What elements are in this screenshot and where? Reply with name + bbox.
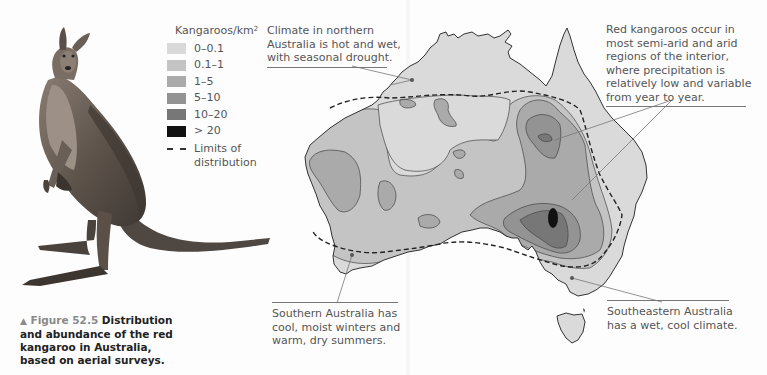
callout-southeast: Southeastern Australia has a wet, cool c… [607, 300, 738, 332]
triangle-marker-icon: ▲ [20, 316, 27, 326]
callout-north: Climate in northern Australia is hot and… [267, 24, 401, 68]
callout-line: Red kangaroos occur in [606, 23, 751, 37]
callout-interior: Red kangaroos occur in most semi-arid an… [606, 23, 751, 107]
callout-line: Southeastern Australia [607, 305, 738, 319]
callout-south: Southern Australia has cool, moist winte… [272, 302, 400, 348]
callout-rule [606, 106, 746, 107]
callout-rule [267, 67, 387, 68]
callout-line: Southern Australia has [272, 307, 400, 321]
callout-line: cool, moist winters and [272, 321, 400, 335]
callout-line: relatively low and variable [606, 77, 751, 91]
callout-line: where precipitation is [606, 64, 751, 78]
callout-line: Australia is hot and wet, [267, 38, 401, 52]
callout-line: most semi-arid and arid [606, 37, 751, 51]
callout-rule [272, 302, 398, 303]
figure-number: Figure 52.5 [31, 314, 99, 326]
callout-line: from year to year. [606, 91, 751, 105]
callout-line: warm, dry summers. [272, 334, 400, 348]
callout-line: regions of the interior, [606, 50, 751, 64]
callout-line: with seasonal drought. [267, 51, 401, 65]
callout-line: has a wet, cool climate. [607, 319, 738, 333]
callout-line: Climate in northern [267, 24, 401, 38]
figure-caption: ▲ Figure 52.5 Distribution and abundance… [20, 314, 185, 367]
callout-rule [607, 300, 729, 301]
